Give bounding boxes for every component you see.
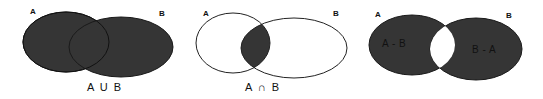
difference-set-a-label: A (375, 10, 381, 19)
difference-set-b-label: B (506, 11, 512, 20)
intersection-diagram: A B A ∩ B (196, 9, 347, 93)
union-caption: A U B (87, 81, 123, 93)
region-a-minus-b-label: A - B (382, 38, 406, 49)
union-set-b-ellipse (69, 17, 173, 77)
venn-diagrams-canvas: A B A U B A B A ∩ B A B A - B B - A (0, 0, 543, 99)
intersection-caption: A ∩ B (245, 81, 281, 93)
union-set-b-label: B (159, 9, 165, 18)
intersection-set-b-label: B (333, 9, 339, 18)
difference-diagram: A B A - B B - A (369, 10, 522, 80)
intersection-set-a-label: A (203, 9, 209, 18)
region-b-minus-a-label: B - A (472, 44, 496, 55)
union-set-a-label: A (30, 7, 36, 16)
union-diagram: A B A U B (23, 7, 173, 93)
